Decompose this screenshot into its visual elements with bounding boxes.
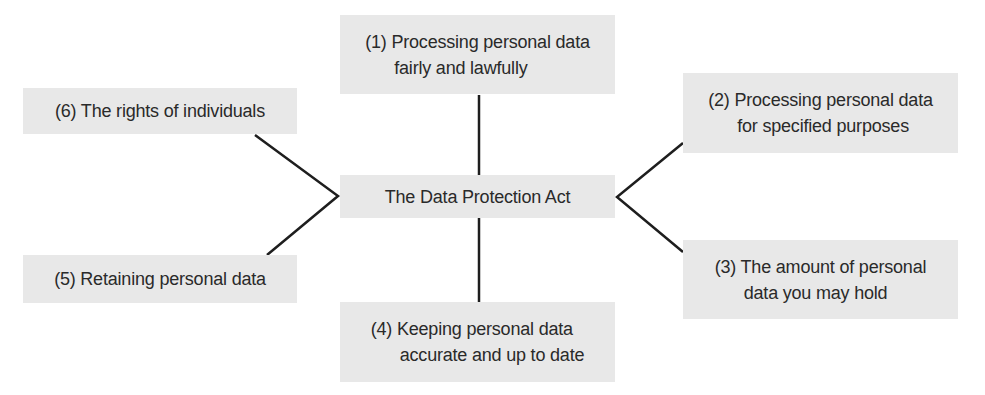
node-3-box: (3) The amount of personal data you may …: [683, 240, 958, 319]
node-5-label: (5) Retaining personal data: [54, 266, 266, 292]
node-4-box: (4) Keeping personal data accurate and u…: [340, 302, 615, 382]
node-2-line-1: (2) Processing personal data: [708, 87, 933, 113]
node-6-box: (6) The rights of individuals: [23, 88, 297, 134]
node-3-line-1: (3) The amount of personal: [715, 254, 927, 280]
node-6-label: (6) The rights of individuals: [55, 98, 265, 124]
node-4-line-2: accurate and up to date: [371, 342, 585, 368]
node-1-line-2: fairly and lawfully: [365, 55, 590, 81]
node-1-line-1: (1) Processing personal data: [365, 29, 590, 55]
node-4-line-1: (4) Keeping personal data: [371, 316, 585, 342]
node-2-box: (2) Processing personal data for specifi…: [683, 73, 958, 153]
node-1-box: (1) Processing personal data fairly and …: [340, 15, 615, 94]
node-3-line-2: data you may hold: [715, 280, 927, 306]
connector-center-to-nodes-6-5: [255, 135, 338, 255]
center-box: The Data Protection Act: [340, 175, 615, 218]
node-5-box: (5) Retaining personal data: [23, 255, 297, 303]
center-label: The Data Protection Act: [385, 184, 571, 210]
node-2-line-2: for specified purposes: [708, 113, 933, 139]
connector-center-to-nodes-2-3: [617, 143, 683, 252]
